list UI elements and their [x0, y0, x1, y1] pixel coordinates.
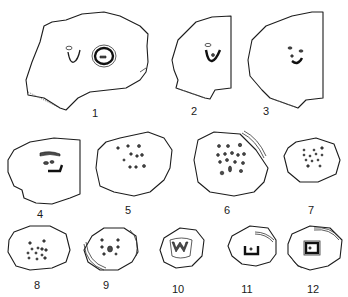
panel-12-section [288, 226, 342, 270]
panel-10-section [160, 228, 204, 268]
panel-10-label: 10 [172, 284, 184, 295]
panel-3-section [248, 12, 323, 108]
panel-9-label: 9 [103, 280, 109, 291]
panel-5-label: 5 [125, 205, 131, 216]
panel-2-label: 2 [191, 106, 197, 117]
panel-4-label: 4 [37, 209, 43, 220]
figure-drawing [0, 0, 348, 297]
panel-6-section [194, 131, 268, 196]
panel-11-section [228, 226, 276, 266]
panel-1-label: 1 [92, 108, 98, 119]
panel-8-section [8, 226, 70, 270]
panel-6-label: 6 [224, 205, 230, 216]
panel-7-section [284, 138, 340, 182]
panel-3-label: 3 [263, 106, 269, 117]
figure: 1 2 3 4 5 6 7 8 9 10 11 12 [0, 0, 348, 297]
panel-7-label: 7 [308, 205, 314, 216]
panel-4-section [8, 138, 80, 204]
panel-1-section [26, 12, 148, 110]
panel-11-label: 11 [241, 284, 252, 295]
panel-12-label: 12 [307, 284, 319, 295]
panel-5-section [96, 132, 172, 196]
panel-2-section [172, 16, 231, 99]
panel-9-section [84, 228, 138, 270]
panel-8-label: 8 [34, 280, 40, 291]
